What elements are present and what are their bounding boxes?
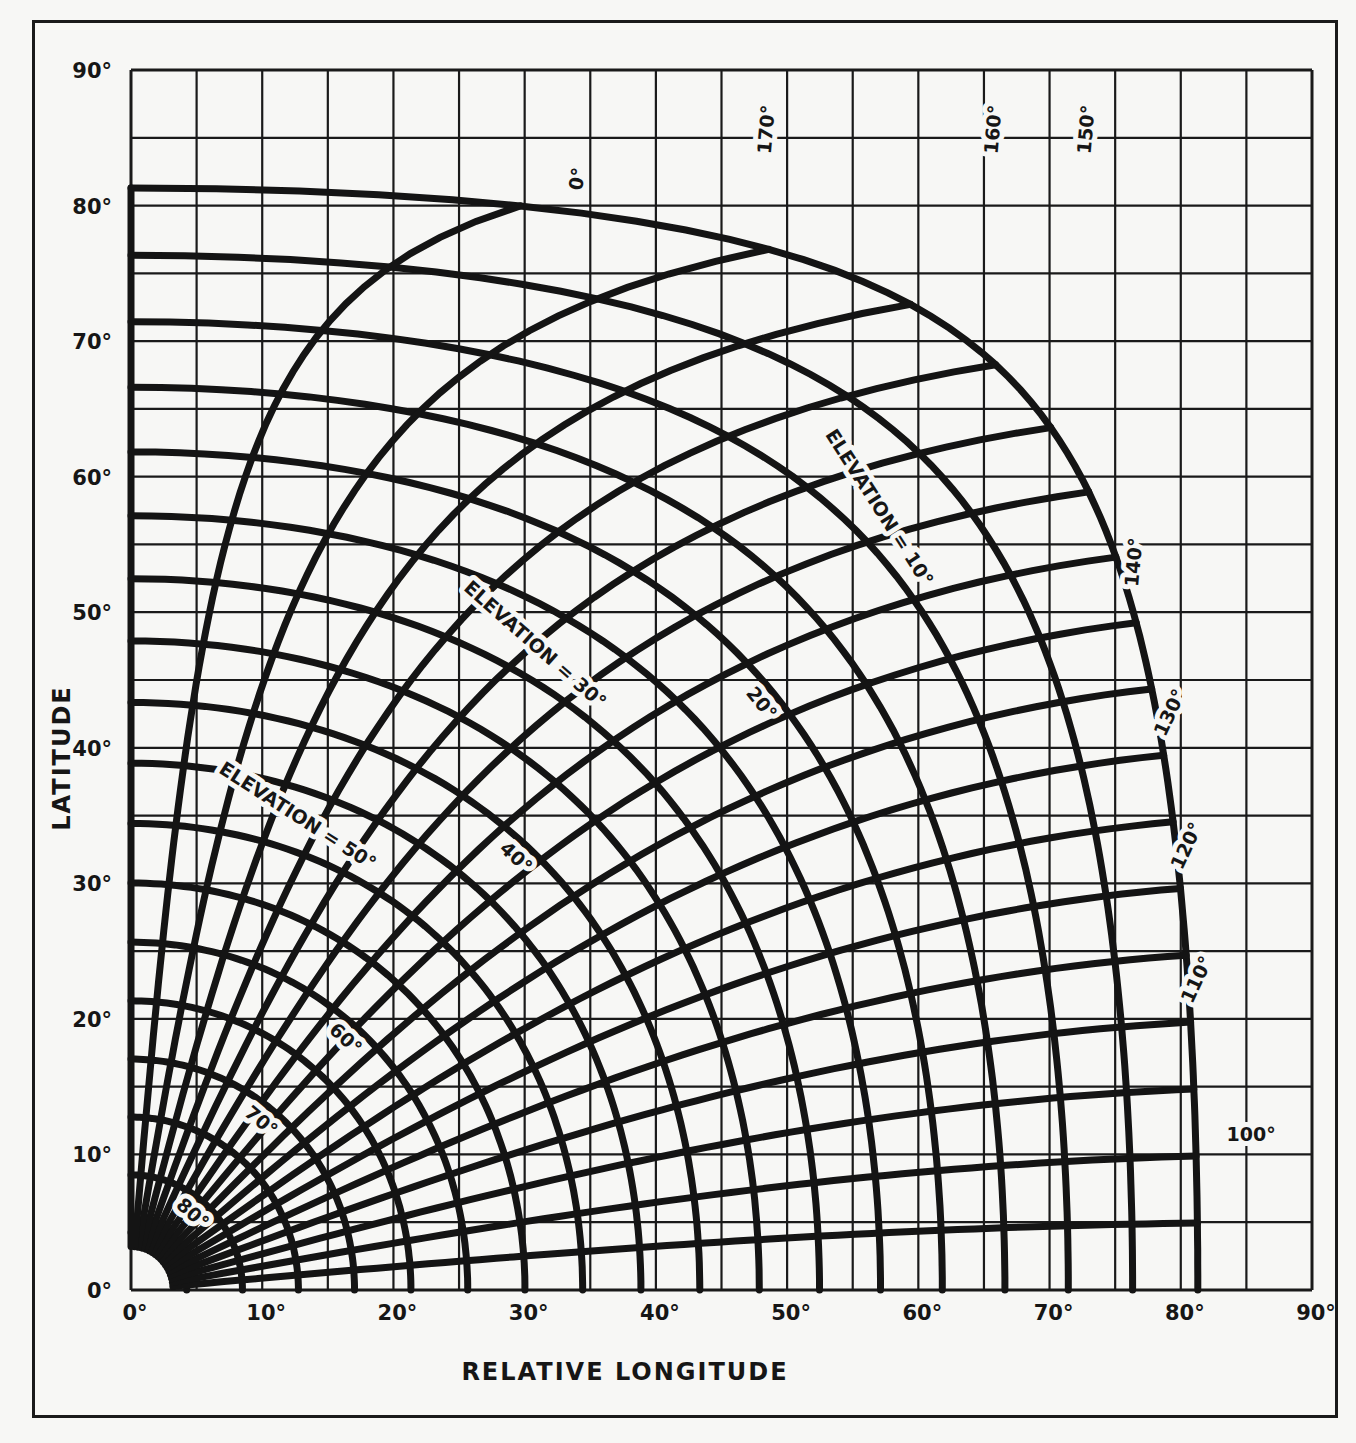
x-axis-title: RELATIVE LONGITUDE [461, 1358, 788, 1386]
y-tick-label: 30° [72, 872, 112, 896]
x-tick-label: 30° [509, 1301, 549, 1325]
x-tick-label: 10° [246, 1301, 286, 1325]
x-tick-label: 80° [1165, 1301, 1205, 1325]
x-tick-label: 40° [640, 1301, 680, 1325]
azimuth-label-110: 110° [1176, 952, 1217, 1006]
x-tick-label: 0° [122, 1301, 147, 1325]
azimuth-label-0: 0° [564, 166, 590, 192]
azimuth-label-160: 160° [980, 104, 1006, 155]
y-tick-label: 60° [72, 466, 112, 490]
azimuth-label-100: 100° [1226, 1123, 1275, 1145]
y-tick-label: 20° [72, 1008, 112, 1032]
y-axis-title: LATITUDE [48, 685, 76, 830]
y-tick-label: 0° [87, 1279, 112, 1303]
y-tick-label: 10° [72, 1143, 112, 1167]
y-tick-label: 40° [72, 737, 112, 761]
azimuth-label-140: 140° [1120, 537, 1146, 588]
elevation-label-70: 70° [241, 1101, 283, 1141]
y-tick-label: 90° [72, 59, 112, 83]
elevation-azimuth-chart: ELEVATION = 10°ELEVATION = 10°20°20°ELEV… [0, 0, 1356, 1443]
y-tick-label: 80° [72, 195, 112, 219]
azimuth-label-170: 170° [753, 104, 779, 155]
x-tick-label: 20° [378, 1301, 418, 1325]
y-tick-label: 50° [72, 601, 112, 625]
x-tick-label: 60° [902, 1301, 942, 1325]
y-tick-label: 70° [72, 330, 112, 354]
x-tick-label: 90° [1296, 1301, 1336, 1325]
azimuth-label-150: 150° [1073, 104, 1099, 155]
x-tick-label: 50° [771, 1301, 811, 1325]
elevation-azimuth-curves [131, 188, 1198, 1290]
x-tick-label: 70° [1034, 1301, 1074, 1325]
